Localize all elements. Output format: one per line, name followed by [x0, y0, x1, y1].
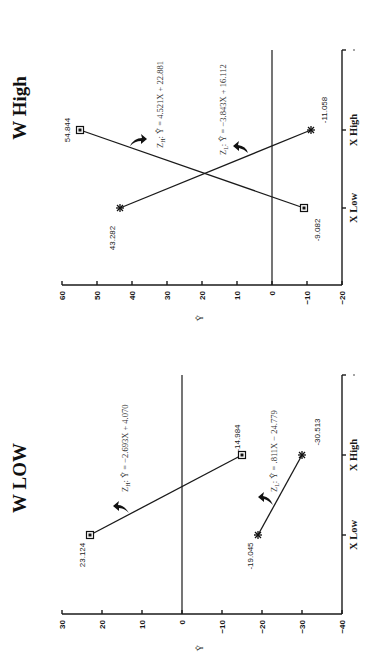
panel-w-low: W LOW 30 20 10 0 −10 −20 −30 −40 Ŷ — [9, 374, 359, 651]
svg-text:60: 60 — [58, 290, 67, 299]
asterisk-marker — [307, 126, 315, 134]
curved-arrow-icon — [258, 492, 273, 505]
equation-zh: ZH: Ŷ = −2.693X + 4.070 — [120, 405, 131, 492]
svg-text:0: 0 — [178, 619, 187, 624]
asterisk-marker — [298, 451, 306, 459]
figure: W High 60 50 40 30 20 10 0 −10 −20 Ŷ — [0, 0, 371, 662]
svg-text:20: 20 — [98, 619, 107, 628]
svg-text:30: 30 — [163, 290, 172, 299]
x-low-label: X Low — [348, 520, 359, 550]
svg-text:−20: −20 — [338, 290, 347, 304]
asterisk-marker — [116, 204, 124, 212]
y-axis-label: Ŷ — [195, 644, 205, 651]
data-label: -14.984 — [233, 424, 242, 452]
y-axis-label: Ŷ — [195, 314, 205, 321]
svg-text:50: 50 — [93, 290, 102, 299]
data-label: -9.082 — [313, 218, 322, 241]
svg-text:30: 30 — [58, 619, 67, 628]
equation-zh: ZH: Ŷ = 4.521X + 22.881 — [155, 61, 166, 148]
x-high-label: X High — [348, 114, 359, 147]
svg-text:−10: −10 — [218, 619, 227, 633]
data-label: -19.045 — [246, 542, 255, 570]
data-label: -30.513 — [313, 418, 322, 446]
svg-text:−30: −30 — [298, 619, 307, 633]
svg-text:40: 40 — [128, 290, 137, 299]
curved-arrow-icon — [113, 501, 129, 513]
equation-zl: ZL: Ŷ = .811X − 24.779 — [269, 410, 280, 492]
equation-zl: ZL: Ŷ = −3.843X + 16.112 — [218, 64, 229, 155]
data-label: 54.844 — [63, 117, 72, 142]
y-tick-labels: 30 20 10 0 −10 −20 −30 −40 — [58, 619, 347, 633]
series-zh-line — [90, 455, 242, 535]
series-zl-line — [120, 130, 311, 208]
series-zl-line — [258, 455, 302, 535]
data-label: 23.124 — [78, 542, 87, 567]
svg-text:−20: −20 — [258, 619, 267, 633]
svg-text:−40: −40 — [338, 619, 347, 633]
curved-arrow-icon — [130, 134, 147, 146]
x-high-label: X High — [348, 439, 359, 472]
series-zh-line — [80, 130, 304, 208]
svg-text:20: 20 — [198, 290, 207, 299]
asterisk-marker — [254, 531, 262, 539]
x-low-label: X Low — [348, 193, 359, 223]
panel-w-high: W High 60 50 40 30 20 10 0 −10 −20 Ŷ — [9, 49, 359, 321]
svg-text:10: 10 — [233, 290, 242, 299]
svg-text:0: 0 — [268, 290, 277, 295]
panel-title: W High — [9, 76, 30, 140]
data-label: -11.058 — [320, 96, 329, 123]
y-tick-labels: 60 50 40 30 20 10 0 −10 −20 — [58, 290, 347, 304]
panel-title: W LOW — [9, 443, 30, 513]
svg-text:−10: −10 — [303, 290, 312, 304]
svg-text:10: 10 — [138, 619, 147, 628]
curved-arrow-icon — [233, 141, 248, 153]
data-label: 43.282 — [108, 225, 117, 250]
